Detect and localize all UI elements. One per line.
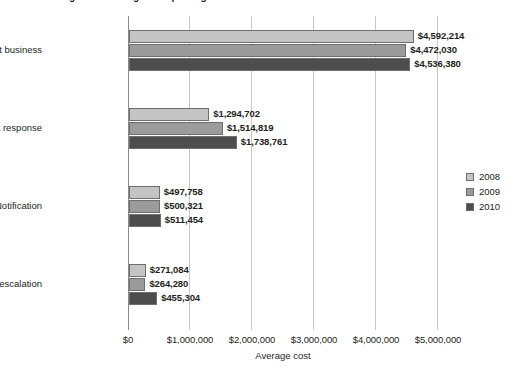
bar-value-2010: $1,738,761: [241, 135, 288, 149]
bar-value-2008: $271,084: [150, 263, 189, 277]
bar-value-2009: $1,514,819: [227, 121, 274, 135]
bar-2009[interactable]: [129, 44, 406, 57]
bar-row: $500,321: [129, 200, 438, 213]
bar-row: $511,454: [129, 214, 438, 227]
category-label: Notification: [0, 200, 42, 211]
bar-group: Detection and escalation $271,084 $264,2…: [129, 264, 438, 306]
bar-group: Notification $497,758 $500,321 $511,454: [129, 186, 438, 228]
legend-label: 2010: [479, 201, 500, 212]
legend-label: 2009: [479, 186, 500, 197]
legend-item-2009[interactable]: 2009: [466, 185, 500, 198]
bar-row: $4,472,030: [129, 44, 438, 57]
plot-area: Lost business $4,592,214 $4,472,030 $4,5…: [128, 16, 438, 330]
bar-value-2010: $511,454: [165, 213, 203, 227]
x-tick: $3,000,000: [291, 334, 338, 345]
bar-group: Lost business $4,592,214 $4,472,030 $4,5…: [129, 30, 438, 72]
legend: 2008 2009 2010: [466, 170, 500, 215]
legend-label: 2008: [479, 171, 500, 182]
bar-row: $1,738,761: [129, 136, 438, 149]
x-tick: $1,000,000: [167, 334, 214, 345]
bar-value-2008: $1,294,702: [213, 107, 260, 121]
category-label: Ex-post response: [0, 122, 42, 133]
bar-row: $455,304: [129, 292, 438, 305]
legend-item-2010[interactable]: 2010: [466, 200, 500, 213]
bar-value-2010: $4,536,380: [414, 57, 461, 71]
legend-swatch-icon: [466, 203, 474, 211]
bar-value-2009: $500,321: [164, 199, 203, 213]
bar-row: $4,536,380: [129, 58, 438, 71]
bar-2010[interactable]: [129, 136, 237, 149]
legend-swatch-icon: [466, 173, 474, 181]
x-axis-label: Average cost: [128, 350, 438, 361]
bar-2010[interactable]: [129, 292, 157, 305]
bar-row: $264,280: [129, 278, 438, 291]
bar-value-2010: $455,304: [161, 291, 200, 305]
category-label: Lost business: [0, 44, 42, 55]
bar-2010[interactable]: [129, 58, 410, 71]
category-label: Detection and escalation: [0, 278, 42, 289]
bar-2008[interactable]: [129, 264, 146, 277]
x-tick: $4,000,000: [353, 334, 400, 345]
bar-2008[interactable]: [129, 186, 160, 199]
bar-value-2009: $4,472,030: [410, 43, 457, 57]
bar-row: $1,294,702: [129, 108, 438, 121]
bar-row: $1,514,819: [129, 122, 438, 135]
legend-swatch-icon: [466, 188, 474, 196]
bar-2009[interactable]: [129, 200, 160, 213]
x-tick: $5,000,000: [415, 334, 462, 345]
bar-value-2008: $4,592,214: [418, 29, 465, 43]
bar-2009[interactable]: [129, 278, 145, 291]
bar-group: Ex-post response $1,294,702 $1,514,819 $…: [129, 108, 438, 150]
bar-2010[interactable]: [129, 214, 161, 227]
chart-title: Figure 8. Average cost per organization: [60, 0, 460, 2]
bar-row: $4,592,214: [129, 30, 438, 43]
bar-2008[interactable]: [129, 30, 414, 43]
x-axis-ticks: $0 $1,000,000 $2,000,000 $3,000,000 $4,0…: [128, 334, 438, 348]
bar-row: $497,758: [129, 186, 438, 199]
x-tick: $2,000,000: [229, 334, 276, 345]
bar-value-2009: $264,280: [149, 277, 188, 291]
bar-value-2008: $497,758: [164, 185, 203, 199]
x-tick: $0: [123, 334, 133, 345]
chart-figure: Figure 8. Average cost per organization …: [0, 0, 520, 370]
legend-item-2008[interactable]: 2008: [466, 170, 500, 183]
bar-2008[interactable]: [129, 108, 209, 121]
bar-row: $271,084: [129, 264, 438, 277]
bar-2009[interactable]: [129, 122, 223, 135]
